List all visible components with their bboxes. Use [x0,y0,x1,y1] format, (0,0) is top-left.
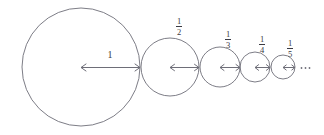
radius-label-4: 1 4 [255,35,269,56]
fraction-5-denominator: 5 [287,50,293,59]
fraction-5-numerator: 1 [287,39,293,48]
fraction-3: 1 3 [225,30,231,50]
fraction-4-numerator: 1 [259,35,265,44]
fraction-4: 1 4 [259,35,265,55]
fraction-3-numerator: 1 [225,30,231,39]
fraction-5: 1 5 [287,39,293,59]
radius-label-1: 1 [104,50,116,60]
radius-label-3: 1 3 [221,30,235,51]
ellipsis-icon [301,67,311,69]
fraction-4-denominator: 4 [259,46,265,55]
radius-label-5: 1 5 [283,39,297,60]
fraction-3-denominator: 3 [225,41,231,50]
fraction-2-numerator: 1 [176,17,182,26]
fraction-2: 1 2 [176,17,182,37]
radius-label-1-text: 1 [108,49,113,60]
fraction-2-denominator: 2 [176,28,182,37]
figure-container: 1 1 2 1 3 1 4 1 5 [0,0,324,135]
circles-diagram [0,0,324,135]
radius-label-2: 1 2 [172,17,186,38]
